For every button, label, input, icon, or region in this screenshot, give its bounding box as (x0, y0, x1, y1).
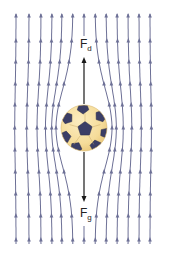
flow-arrowhead-icon (148, 38, 152, 43)
flow-arrowhead-icon (25, 102, 29, 107)
flow-arrowhead-icon (115, 13, 119, 18)
flow-arrowhead-icon (137, 13, 141, 18)
flow-arrowhead-icon (138, 81, 142, 86)
flow-arrowhead-icon (13, 147, 17, 152)
flow-arrowhead-icon (94, 13, 98, 18)
soccer-ball-icon (60, 103, 110, 154)
gravity-force-label: Fg (80, 207, 92, 222)
flow-arrowhead-icon (138, 169, 142, 174)
flow-arrowhead-icon (137, 237, 141, 242)
flow-arrowhead-icon (57, 102, 61, 107)
flow-arrowhead-icon (39, 38, 43, 43)
flow-arrowhead-icon (95, 213, 99, 218)
drag-force-subscript: d (87, 44, 91, 53)
flow-arrowhead-icon (127, 191, 131, 196)
flow-arrowhead-icon (138, 191, 142, 196)
flow-arrowhead-icon (45, 102, 49, 107)
flow-arrowhead-icon (105, 38, 109, 43)
flow-arrowhead-icon (26, 169, 30, 174)
flow-arrowhead-icon (116, 213, 120, 218)
flow-arrowhead-icon (49, 59, 53, 64)
flow-arrowhead-icon (130, 125, 134, 130)
flow-arrowhead-icon (39, 13, 43, 18)
flow-arrowhead-icon (36, 102, 40, 107)
flow-arrowhead-icon (14, 81, 18, 86)
flow-arrowhead-icon (94, 237, 98, 242)
flow-arrowhead-icon (71, 13, 75, 18)
flow-arrowhead-icon (13, 125, 17, 130)
flow-arrowhead-icon (25, 125, 29, 130)
flow-arrowhead-icon (49, 191, 53, 196)
flow-arrowhead-icon (50, 38, 54, 43)
flow-arrowhead-icon (50, 213, 54, 218)
flow-arrowhead-icon (13, 102, 17, 107)
flow-arrowhead-icon (149, 147, 153, 152)
flow-arrowhead-icon (138, 59, 142, 64)
flow-arrowhead-icon (104, 237, 108, 242)
flow-arrowhead-icon (58, 191, 62, 196)
flow-arrowhead-icon (67, 59, 71, 64)
flow-arrowhead-icon (62, 81, 66, 86)
flow-arrowhead-icon (14, 38, 18, 43)
flow-arrowhead-icon (14, 59, 18, 64)
flow-arrowhead-icon (105, 213, 109, 218)
flow-arrowhead-icon (51, 147, 55, 152)
flow-arrowhead-icon (58, 59, 62, 64)
flow-arrowhead-icon (126, 237, 130, 242)
flow-arrowhead-icon (39, 213, 43, 218)
flow-arrowhead-icon (119, 81, 123, 86)
flow-arrowhead-icon (137, 38, 141, 43)
flow-arrowhead-icon (47, 81, 51, 86)
flow-arrowhead-icon (27, 237, 31, 242)
flow-arrowhead-icon (108, 102, 112, 107)
flow-arrowhead-icon (25, 147, 29, 152)
flow-arrowhead-icon (50, 125, 54, 130)
flow-arrowhead-icon (38, 191, 42, 196)
flow-arrowhead-icon (139, 102, 143, 107)
flow-arrowhead-icon (27, 213, 31, 218)
flow-arrowhead-icon (139, 147, 143, 152)
flow-arrowhead-icon (47, 169, 51, 174)
flow-arrowhead-icon (97, 59, 101, 64)
flow-arrowhead-icon (26, 81, 30, 86)
flow-arrowhead-icon (116, 38, 120, 43)
flow-arrowhead-icon (149, 59, 153, 64)
flow-arrowhead-icon (55, 81, 59, 86)
flow-arrowhead-icon (102, 169, 106, 174)
flow-arrowhead-icon (117, 191, 121, 196)
flow-arrowhead-icon (70, 213, 74, 218)
arrow-up-icon (82, 57, 87, 63)
flow-arrowhead-icon (37, 169, 41, 174)
flow-arrowhead-icon (39, 237, 43, 242)
flow-arrowhead-icon (119, 169, 123, 174)
flow-arrowhead-icon (128, 81, 132, 86)
flow-arrowhead-icon (14, 169, 18, 174)
flow-arrowhead-icon (97, 191, 101, 196)
flow-arrowhead-icon (104, 13, 108, 18)
flow-arrowhead-icon (107, 59, 111, 64)
flow-arrowhead-icon (27, 38, 31, 43)
flow-arrowhead-icon (60, 237, 64, 242)
flow-arrowhead-icon (59, 213, 63, 218)
flow-arrowhead-icon (95, 38, 99, 43)
flow-arrowhead-icon (110, 81, 114, 86)
flow-arrowhead-icon (102, 81, 106, 86)
flow-arrowhead-icon (62, 169, 66, 174)
flow-diagram: Fd Fg (0, 0, 169, 253)
flow-arrowhead-icon (129, 147, 133, 152)
flow-arrowhead-icon (27, 191, 31, 196)
flow-arrowhead-icon (107, 191, 111, 196)
flow-arrowhead-icon (54, 125, 58, 130)
flow-arrowhead-icon (67, 191, 71, 196)
arrow-down-icon (82, 196, 87, 202)
flow-arrowhead-icon (127, 213, 131, 218)
flow-arrowhead-icon (55, 169, 59, 174)
flow-arrowhead-icon (150, 125, 154, 130)
flow-arrowhead-icon (137, 213, 141, 218)
flow-arrowhead-icon (57, 147, 61, 152)
flow-arrowhead-icon (148, 13, 152, 18)
flow-arrowhead-icon (14, 213, 18, 218)
flow-arrowhead-icon (27, 13, 31, 18)
flow-arrowhead-icon (14, 237, 18, 242)
flow-arrowhead-icon (121, 147, 125, 152)
